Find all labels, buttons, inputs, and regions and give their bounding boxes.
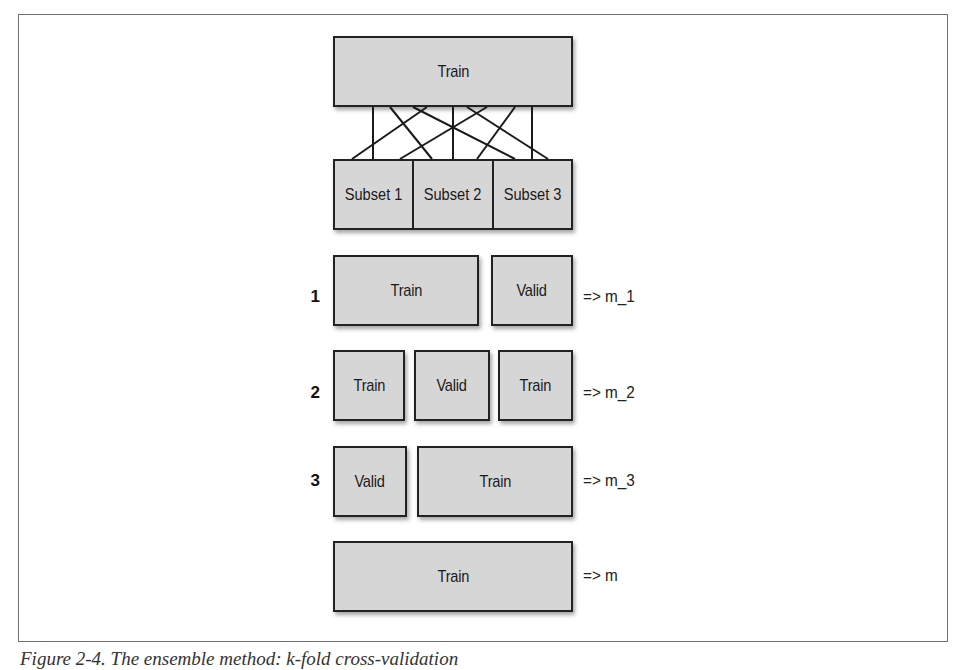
fold-3-number: 3	[300, 471, 320, 491]
fold-3-train-box: Train	[417, 446, 573, 517]
subset-2-label: Subset 2	[424, 185, 482, 205]
fold-1-result: => m_1	[583, 287, 641, 307]
fold-2-result: => m_2	[583, 383, 641, 403]
fold-3-valid-label: Valid	[355, 472, 385, 492]
final-train-box: Train	[333, 541, 573, 612]
final-train-label: Train	[437, 567, 468, 587]
fold-2-train-a-label: Train	[353, 376, 384, 396]
fold-1-result-text: => m_1	[583, 287, 635, 307]
fold-1-train-box: Train	[333, 255, 479, 326]
fold-1-number: 1	[300, 287, 320, 307]
fold-2-train-box-b: Train	[498, 350, 573, 421]
subset-3-label: Subset 3	[503, 185, 561, 205]
subsets-row: Subset 1 Subset 2 Subset 3	[333, 159, 573, 230]
fold-2-result-text: => m_2	[583, 383, 635, 403]
fold-1-valid-box: Valid	[491, 255, 573, 326]
final-result: => m	[583, 566, 622, 586]
fold-2-valid-box: Valid	[414, 350, 490, 421]
subset-1-label: Subset 1	[345, 185, 403, 205]
final-result-text: => m	[583, 566, 618, 586]
fold-1-valid-label: Valid	[517, 281, 547, 301]
subset-2: Subset 2	[414, 161, 493, 228]
fold-3-result-text: => m_3	[583, 471, 635, 491]
fold-3-valid-box: Valid	[333, 446, 407, 517]
fold-2-number: 2	[300, 383, 320, 403]
fold-2-train-box-a: Train	[333, 350, 405, 421]
fold-2-valid-label: Valid	[437, 376, 467, 396]
figure-caption: Figure 2-4. The ensemble method: k-fold …	[20, 648, 458, 670]
fold-3-train-label: Train	[479, 472, 510, 492]
fold-3-result: => m_3	[583, 471, 641, 491]
fold-1-train-label: Train	[390, 281, 421, 301]
fold-2-train-b-label: Train	[520, 376, 551, 396]
subset-1: Subset 1	[335, 161, 414, 228]
subset-3: Subset 3	[494, 161, 571, 228]
